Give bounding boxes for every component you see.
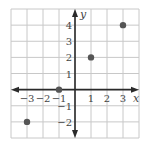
x-tick-label: 3 (120, 93, 126, 104)
coordinate-plane: −3−2−1123−2−11234 x y (0, 0, 145, 147)
x-axis-label: x (133, 92, 140, 105)
x-axis-arrow-left-icon (11, 87, 19, 93)
y-tick-label: 2 (66, 52, 72, 63)
data-point (56, 86, 62, 92)
y-axis-arrow-up-icon (72, 9, 78, 17)
data-point (24, 119, 30, 125)
x-tick-label: −2 (36, 93, 51, 104)
y-tick-label: 4 (66, 20, 72, 31)
y-tick-label: 3 (66, 36, 72, 47)
y-axis-label: y (79, 8, 87, 21)
y-axis-arrow-down-icon (72, 130, 78, 138)
y-tick-label: −2 (57, 117, 72, 128)
data-point (88, 54, 94, 60)
data-point (120, 22, 126, 28)
x-tick-label: −3 (20, 93, 35, 104)
y-tick-label: −1 (57, 101, 72, 112)
y-tick-label: 1 (66, 69, 72, 80)
x-tick-label: 2 (104, 93, 110, 104)
x-tick-label: 1 (88, 93, 94, 104)
